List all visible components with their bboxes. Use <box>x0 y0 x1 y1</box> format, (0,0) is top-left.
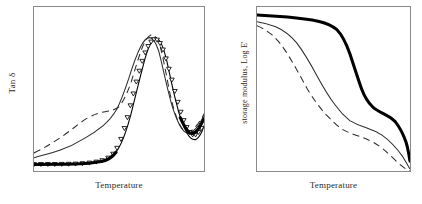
y-axis-label-right: storage modulus, Log E' <box>240 23 249 143</box>
figure-container: Tan δ <box>0 0 422 204</box>
curve-thin-solid-right <box>257 22 410 169</box>
y-axis-label-left: Tan δ <box>7 53 17 113</box>
plot-svg-right <box>257 7 410 171</box>
curve-dashed-left <box>34 35 204 153</box>
panel-storage-modulus: storage modulus, Log E' Temperature <box>211 0 422 204</box>
x-axis-label-left: Temperature <box>33 180 205 190</box>
curve-thin-solid-left <box>34 38 204 158</box>
marker-group-triangles-left <box>34 38 204 167</box>
x-axis-label-right: Temperature <box>256 180 411 190</box>
plot-area-tan-delta <box>33 6 205 172</box>
panel-tan-delta: Tan δ <box>0 0 211 204</box>
curve-dashed-right <box>257 26 410 171</box>
plot-area-storage-modulus <box>256 6 411 172</box>
plot-svg-left <box>34 7 204 171</box>
